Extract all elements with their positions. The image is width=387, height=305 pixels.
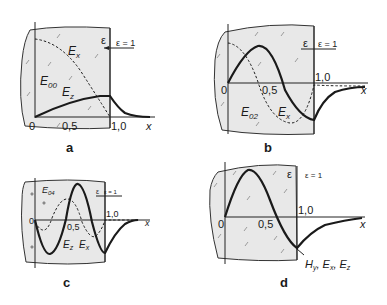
- tick-origin: 0: [218, 218, 224, 230]
- field-distribution-figure: ε ε = 1 Ex E00 Ez 0 0,5 1,0 x a ε ε = 1 …: [0, 0, 387, 305]
- eps-label: ε: [96, 188, 99, 195]
- eps1-label: ε = 1: [318, 39, 337, 49]
- x-axis-label: x: [145, 120, 152, 132]
- panel-letter: b: [264, 140, 272, 155]
- curve-label: Hy, Ex, Ez: [305, 258, 351, 272]
- dielectric-slab: [21, 27, 110, 129]
- panel-d: ε ε = 1 1,0 0 0,5 x Hy, Ex, Ez d: [210, 162, 366, 290]
- dielectric-slab: [210, 165, 297, 261]
- tick-half: 0,5: [62, 120, 77, 132]
- x-axis-label: x: [144, 218, 150, 228]
- tick-half: 0,5: [258, 218, 273, 230]
- tick-half: 0,5: [262, 84, 277, 96]
- eps-label: ε: [303, 37, 308, 49]
- tick-half: 0,5: [67, 222, 80, 232]
- x-axis-label: x: [359, 218, 366, 230]
- panel-a: ε ε = 1 Ex E00 Ez 0 0,5 1,0 x a: [21, 22, 155, 155]
- x-axis-label: x: [360, 84, 367, 96]
- tick-origin: 0: [221, 84, 227, 96]
- pointer-line: [297, 249, 304, 255]
- tick-one: 1,0: [111, 120, 126, 132]
- tick-origin: 0: [29, 120, 35, 132]
- panel-letter: a: [66, 140, 74, 155]
- eps-label: ε: [287, 168, 292, 180]
- eps1-label: ε = 1: [305, 171, 323, 180]
- eps-label: ε: [101, 34, 106, 46]
- eps1-label: ε = 1: [104, 189, 118, 195]
- panel-letter: c: [63, 275, 70, 290]
- panel-b: ε ε = 1 1,0 0 0,5 x E02 Ex b: [214, 24, 368, 155]
- tick-one: 1,0: [315, 71, 330, 83]
- tick-one: 1,0: [298, 204, 313, 216]
- tick-one: 1,0: [106, 209, 119, 219]
- eps1-label: ε = 1: [116, 38, 135, 48]
- panel-letter: d: [280, 275, 288, 290]
- panel-c: ε ε = 1 E04 0 0,5 1,0 x Ez Ex c: [22, 178, 151, 290]
- tick-origin: 0: [29, 216, 34, 226]
